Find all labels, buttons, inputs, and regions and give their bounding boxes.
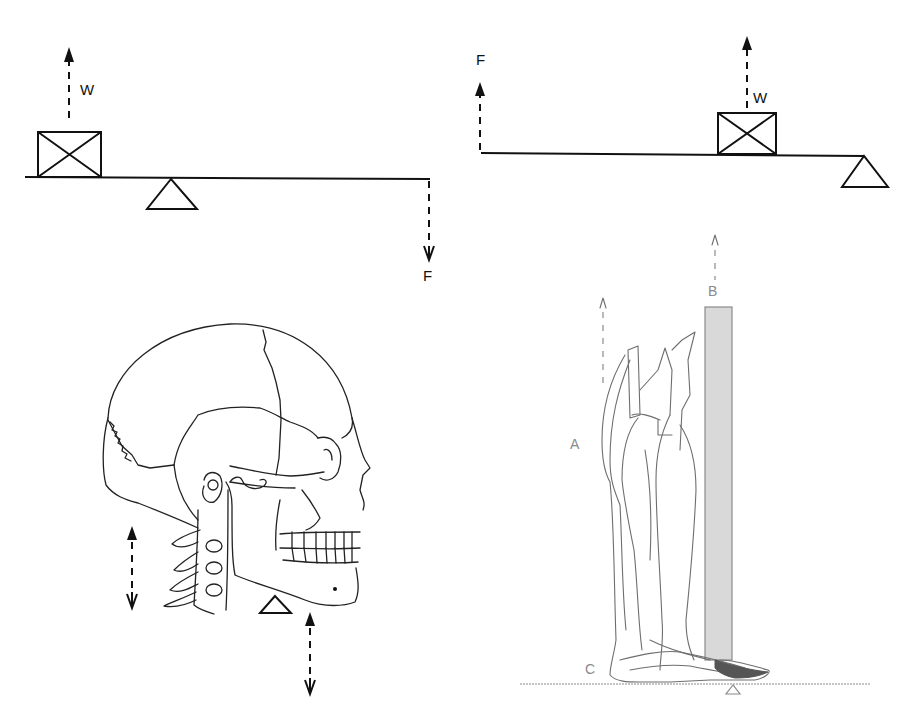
- leg-lever-illustration: A B C: [510, 220, 890, 710]
- skull-drawing: [80, 310, 400, 710]
- effort-arrow-down-icon: [424, 181, 434, 260]
- skull-lever-illustration: [80, 310, 400, 710]
- leg-drawing: [510, 220, 890, 710]
- skull-outline: [103, 324, 370, 606]
- arrow-b-up-icon: [712, 235, 718, 280]
- label-b: B: [708, 284, 717, 298]
- fulcrum-triangle-icon: [260, 596, 291, 613]
- first-class-lever-drawing: [0, 0, 456, 300]
- effort-arrow-up-icon: [475, 82, 485, 150]
- vertical-weight-bar: [705, 307, 732, 660]
- second-class-lever-drawing: [456, 0, 912, 220]
- second-class-lever-diagram: F W: [456, 0, 912, 220]
- label-a: A: [570, 437, 579, 451]
- teeth: [280, 532, 360, 563]
- leg-muscle-sketch: [602, 332, 769, 682]
- jaw-force-arrow-icon: [305, 612, 315, 694]
- load-box-icon: [718, 113, 776, 154]
- fulcrum-triangle-icon: [147, 179, 197, 209]
- effort-label: F: [423, 268, 432, 283]
- neck-muscle-force-arrow-icon: [127, 526, 137, 608]
- load-arrow-up-icon: [742, 36, 752, 108]
- load-label: W: [80, 82, 94, 97]
- label-c: C: [585, 662, 595, 676]
- mental-foramen-dot: [333, 587, 337, 591]
- arrow-a-up-icon: [600, 298, 606, 385]
- cervical-spine: [164, 490, 228, 614]
- load-label: W: [753, 90, 767, 105]
- first-class-lever-diagram: W F: [0, 0, 456, 300]
- lever-beam: [481, 153, 864, 156]
- ear-canal: [203, 473, 222, 503]
- fulcrum-triangle-icon: [842, 156, 888, 187]
- load-box-icon: [38, 132, 101, 177]
- fulcrum-triangle-icon: [726, 685, 740, 694]
- load-arrow-up-icon: [64, 47, 74, 118]
- effort-label: F: [476, 52, 485, 67]
